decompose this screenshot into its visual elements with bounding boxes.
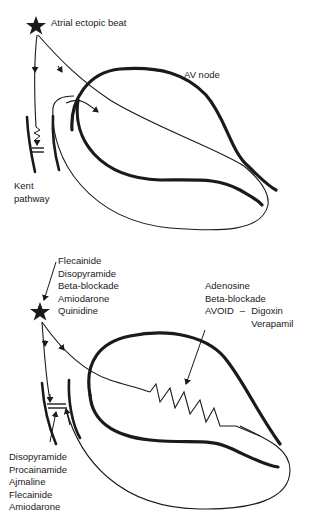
kent-wall-right: [53, 116, 59, 170]
av-node-label: AV node: [184, 69, 220, 82]
ectopic-star-icon: [26, 16, 46, 35]
drug-item: Ajmaline: [9, 476, 67, 489]
drug-item: Amiodarone: [9, 501, 67, 514]
reentry-arrow: [66, 100, 98, 112]
ectopic-drug-list: Flecainide Disopyramide Beta-blockade Am…: [58, 255, 119, 318]
ectopic-drug-pointer: [44, 262, 56, 300]
ectopic-star-icon-2: [30, 302, 50, 321]
drug-item: Beta-blockade: [205, 293, 293, 306]
kent-wall-right-2: [69, 380, 80, 438]
kent-label-line2: pathway: [14, 193, 49, 206]
kent-conduction-line: [35, 35, 37, 127]
drug-item: Disopyramide: [58, 268, 119, 281]
kent-label-line1: Kent: [14, 180, 49, 193]
av-conduction-line: [38, 35, 244, 166]
avoid-label: AVOID: [205, 305, 234, 330]
drug-item: Verapamil: [251, 318, 293, 331]
drug-item: Amiodarone: [58, 293, 119, 306]
ectopic-beat-label: Atrial ectopic beat: [51, 17, 127, 30]
av-node-outline-top-2: [89, 333, 280, 444]
conduction-loop-top: [53, 96, 74, 108]
kent-block-zigzag: [34, 127, 40, 140]
avoid-list: Digoxin Verapamil: [251, 305, 293, 330]
av-node-outline-top: [72, 68, 276, 190]
av-node-drug-list: Adenosine Beta-blockade AVOID – Digoxin …: [205, 280, 293, 330]
arrhythmia-diagram: [0, 0, 314, 516]
av-node-outline: [77, 100, 262, 205]
drug-item: Adenosine: [205, 280, 293, 293]
drug-item: Digoxin: [251, 305, 293, 318]
kent-wall-left: [27, 117, 35, 172]
drug-item: Disopyramide: [9, 451, 67, 464]
drug-item: Flecainide: [58, 255, 119, 268]
drug-item: Flecainide: [9, 489, 67, 502]
drug-item: Procainamide: [9, 464, 67, 477]
drug-item: Beta-blockade: [58, 280, 119, 293]
top-panel: [26, 16, 276, 230]
accessory-drug-list: Disopyramide Procainamide Ajmaline Fleca…: [9, 451, 67, 514]
avoid-row: AVOID – Digoxin Verapamil: [205, 305, 293, 330]
drug-item: Quinidine: [58, 305, 119, 318]
kent-pathway-label: Kent pathway: [14, 180, 49, 205]
